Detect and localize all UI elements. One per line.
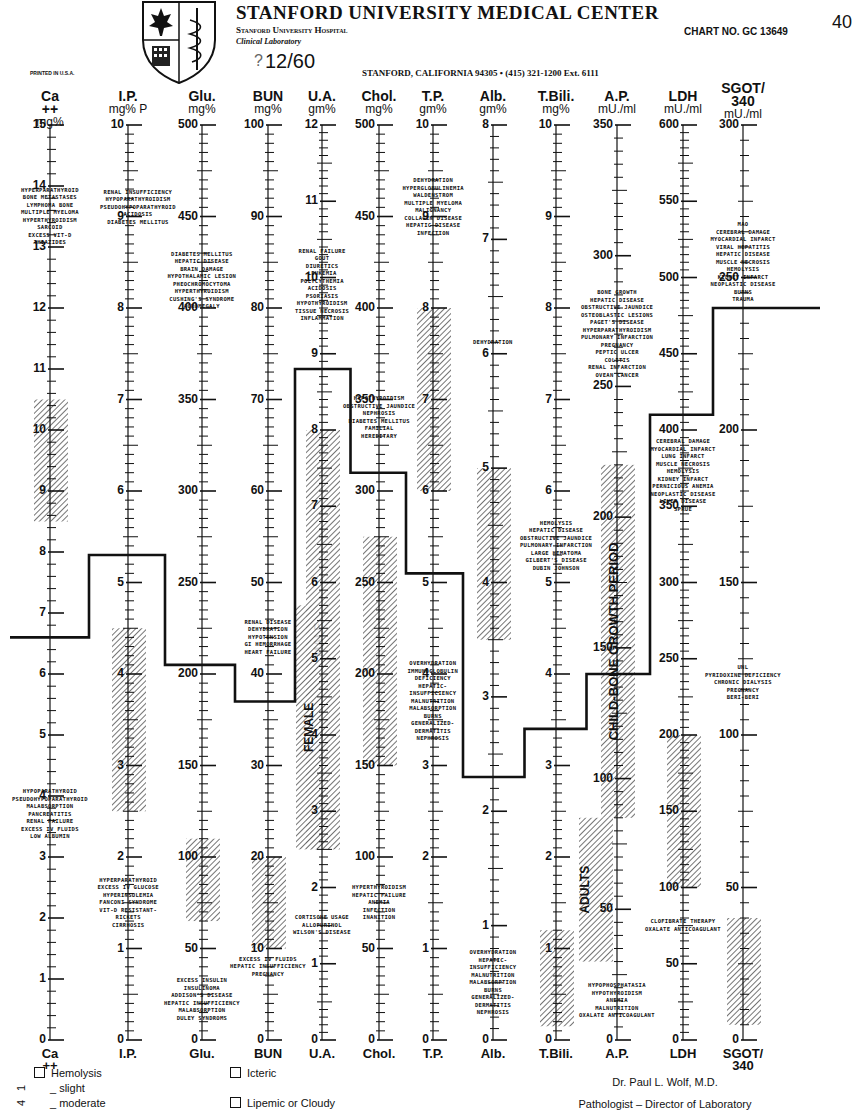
tick-label-ldh: 300 [639,575,679,589]
tick-label-glu: 100 [158,849,198,863]
tick-label-ldh: 50 [639,956,679,970]
tick-label-alb: 2 [449,803,489,817]
annotation-tbili: HEMOLYSIS HEPATIC DISEASE OBSTRUCTIVE JA… [520,520,592,573]
annotation-ap: HYPOPHOSPHATASIA HYPOTHYROIDISM ANEMIA M… [579,982,655,1020]
legend-moderate: _ moderate [50,1097,106,1109]
annotation-ca: HYPERPARATHYROID BONE METASTASES LYMPHOM… [21,187,79,247]
tick-label-ldh: 600 [639,117,679,131]
signature-role: Pathologist – Director of Laboratory [540,1098,790,1110]
margin-mark-4: 4 [15,1100,27,1106]
tick-label-ca: 5 [6,727,46,741]
tick-label-tbili: 6 [512,483,552,497]
tick-label-ldh: 250 [639,651,679,665]
annotation-sgot: UNL PYRIDOXINE DEFICIENCY CHRONIC DIALYS… [705,664,781,702]
tick-label-tbili: 9 [512,209,552,223]
tick-label-glu: 150 [158,758,198,772]
tick-label-glu: 0 [158,1032,198,1046]
signature-name: Dr. Paul L. Wolf, M.D. [560,1076,770,1088]
tick-label-chol: 50 [335,941,375,955]
tick-label-ip: 5 [84,575,124,589]
tick-label-ap: 300 [573,248,613,262]
tick-label-sgot: 300 [699,117,739,131]
lipemic-checkbox[interactable] [230,1097,241,1108]
tick-label-alb: 6 [449,346,489,360]
annotation-chol: HYPOTHYROIDISM OBSTRUCTIVE JAUNDICE NEPH… [343,395,415,440]
tick-label-ua: 2 [278,880,318,894]
tick-label-tp: 8 [389,300,429,314]
tick-label-ca: 10 [6,422,46,436]
tick-label-ip: 0 [84,1032,124,1046]
tick-label-sgot: 150 [699,575,739,589]
tick-label-ap: 0 [573,1032,613,1046]
tick-label-ua: 12 [278,117,318,131]
tick-label-ip: 6 [84,483,124,497]
tick-label-ca: 0 [6,1032,46,1046]
tick-label-ldh: 150 [639,803,679,817]
tick-label-alb: 1 [449,918,489,932]
legend-slight: _ slight [50,1082,85,1094]
legend-lipemic[interactable]: Lipemic or Cloudy [230,1097,335,1109]
tick-label-ca: 3 [6,849,46,863]
tick-label-ua: 9 [278,346,318,360]
tick-label-ca: 7 [6,605,46,619]
tick-label-bun: 20 [224,849,264,863]
tick-label-ip: 8 [84,300,124,314]
tick-label-chol: 300 [335,483,375,497]
tick-label-ip: 4 [84,666,124,680]
tick-label-glu: 250 [158,575,198,589]
annotation-chol: HYPERTHYROIDISM HEPATIC FAILURE ANEMIA I… [352,884,406,922]
tick-label-ip: 3 [84,758,124,772]
tick-label-ap: 150 [573,640,613,654]
tick-label-chol: 150 [335,758,375,772]
tick-label-chol: 250 [335,575,375,589]
annotation-ua: RENAL FAILURE GOUT DIURETICS LEUKEMIA PO… [295,248,349,323]
tick-label-tp: 3 [389,758,429,772]
tick-label-ca: 11 [6,361,46,375]
tick-label-ca: 9 [6,483,46,497]
tick-label-ca: 6 [6,666,46,680]
icteric-checkbox[interactable] [230,1067,241,1078]
tick-label-bun: 50 [224,575,264,589]
tick-label-bun: 40 [224,666,264,680]
tick-label-ua: 4 [278,727,318,741]
tick-label-chol: 450 [335,209,375,223]
tick-label-tbili: 7 [512,392,552,406]
tick-label-ua: 6 [278,575,318,589]
annotation-ip: RENAL INSUFFICIENCY HYPOPARATHYROIDISM P… [100,189,176,227]
tick-label-chol: 500 [335,117,375,131]
tick-label-ldh: 500 [639,270,679,284]
annotation-ip: HYPERPARATHYROID EXCESS IV GLUCOSE HYPER… [98,877,159,930]
tick-label-tbili: 5 [512,575,552,589]
tick-label-ap: 50 [573,901,613,915]
tick-label-ca: 2 [6,910,46,924]
tick-label-chol: 0 [335,1032,375,1046]
legend-hemolysis[interactable]: Hemolysis [34,1067,102,1079]
tick-label-ip: 2 [84,849,124,863]
annotation-glu: DIABETES MELLITUS HEPATIC DISEASE BRAIN … [168,251,237,311]
annotation-tp: DEHYDRATION HYPERGLOBULINEMIA WALDENSTRO… [403,177,464,237]
tick-label-alb: 5 [449,460,489,474]
tick-label-ua: 11 [278,193,318,207]
legend-icteric[interactable]: Icteric [230,1067,276,1079]
tick-label-tp: 5 [389,575,429,589]
tick-label-tbili: 0 [512,1032,552,1046]
tick-label-chol: 100 [335,849,375,863]
tick-label-sgot: 0 [699,1032,739,1046]
annotation-ldh: CLOFIBRATE THERAPY OXALATE ANTICOAGULANT [645,918,721,933]
tick-label-ldh: 550 [639,193,679,207]
tick-label-tp: 6 [389,483,429,497]
annotation-glu: EXCESS INSULIN INSULINOMA ADDISON'S DISE… [164,977,240,1022]
annotation-ca: HYPOPARATHYROID PSEUDOHYPOPARATHYROID MA… [12,788,88,841]
tick-label-bun: 30 [224,758,264,772]
tick-label-ip: 7 [84,392,124,406]
tick-label-ap: 350 [573,117,613,131]
tick-label-sgot: 200 [699,422,739,436]
tick-label-ua: 3 [278,803,318,817]
tick-label-bun: 70 [224,392,264,406]
tick-label-ca: 1 [6,971,46,985]
tick-label-glu: 200 [158,666,198,680]
tick-label-ldh: 200 [639,727,679,741]
annotation-alb: OVERHYDRATION HEPATIC- INSUFFICIENCY MAL… [470,949,517,1017]
hemolysis-checkbox[interactable] [34,1067,45,1078]
tick-label-bun: 10 [224,941,264,955]
